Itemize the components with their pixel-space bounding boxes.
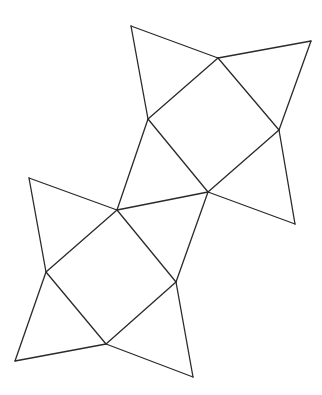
edge-LN [106, 344, 193, 377]
edge-BC [218, 41, 311, 58]
edge-AB [131, 26, 218, 58]
edge-EF [208, 130, 279, 192]
edge-IJ [29, 178, 46, 272]
edge-JL [46, 272, 106, 344]
edge-HF [117, 192, 208, 210]
pyramid-net-diagram [0, 0, 322, 395]
edge-BE [218, 58, 279, 130]
edge-HJ [46, 210, 117, 272]
net-svg [0, 0, 322, 395]
edge-ML [15, 344, 106, 361]
edge-KN [176, 282, 193, 377]
edge-BD [148, 58, 218, 119]
edge-AD [131, 26, 148, 119]
edge-KL [106, 282, 176, 344]
edge-DF [148, 119, 208, 192]
edge-HK [117, 210, 176, 282]
edge-JM [15, 272, 46, 361]
edge-HI [29, 178, 117, 210]
edge-FG [208, 192, 295, 224]
edge-EG [279, 130, 295, 224]
edge-FK [176, 192, 208, 282]
edge-CE [279, 41, 311, 130]
edge-DH [117, 119, 148, 210]
